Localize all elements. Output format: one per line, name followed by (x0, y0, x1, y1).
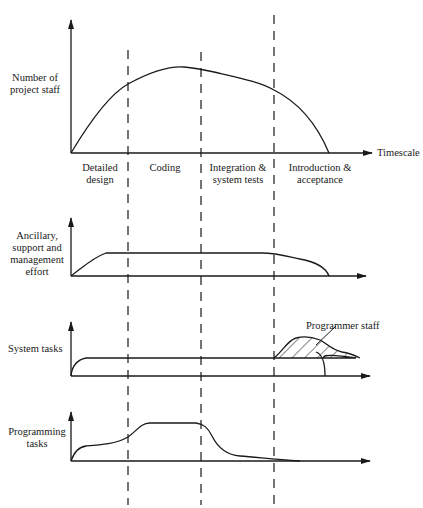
phase-detailed-design: Detailed design (74, 162, 126, 186)
label-ancillary: Ancillary, support and management effort (6, 230, 68, 278)
phase-introduction-acceptance: Introduction & acceptance (280, 162, 360, 186)
phase-coding: Coding (132, 162, 198, 174)
panel-project-staff (71, 20, 372, 153)
label-system-tasks: System tasks (8, 343, 70, 355)
system-tasks-curve (71, 355, 356, 376)
label-project-staff: Number of project staff (4, 72, 66, 96)
programmer-staff-hatch (270, 330, 365, 360)
label-programming-tasks: Programming tasks (6, 426, 68, 450)
annotation-programmer-staff: Programmer staff (306, 320, 380, 332)
ancillary-curve (71, 253, 329, 276)
programming-curve (71, 423, 300, 461)
x-axis-label: Timescale (377, 147, 420, 159)
phase-dividers (128, 15, 274, 505)
panel-programming-tasks (71, 412, 370, 461)
staff-curve (71, 67, 329, 153)
panel-ancillary (71, 218, 366, 276)
phase-integration-system-tests: Integration & system tests (203, 162, 273, 186)
